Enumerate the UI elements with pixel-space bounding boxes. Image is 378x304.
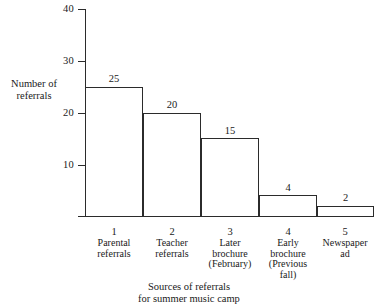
x-axis-caption-line-1: Sources of referrals bbox=[0, 281, 378, 293]
y-axis-title-line-2: referrals bbox=[2, 90, 66, 102]
x-category-label-3: 3 Later brochure (February) bbox=[197, 226, 263, 270]
bar-value-1: 25 bbox=[85, 73, 143, 84]
x-axis-caption: Sources of referrals for summer music ca… bbox=[0, 281, 378, 304]
x-category-line-5-1: Newspaper bbox=[312, 238, 378, 249]
x-category-line-2-1: Teacher bbox=[139, 238, 205, 249]
x-category-label-5: 5 Newspaper ad bbox=[312, 226, 378, 259]
x-category-line-2-2: referrals bbox=[139, 249, 205, 260]
y-tick-label-20: 20 bbox=[52, 108, 74, 119]
y-tick-label-10-wrap: 10 bbox=[52, 160, 74, 171]
y-tick-label-10: 10 bbox=[52, 160, 74, 171]
y-tick-label-30-wrap: 30 bbox=[52, 56, 74, 67]
y-tick-label-20-wrap: 20 bbox=[52, 108, 74, 119]
bar-value-5: 2 bbox=[317, 192, 374, 203]
bar-2 bbox=[143, 113, 201, 218]
bar-1 bbox=[85, 87, 143, 217]
bar-value-3: 15 bbox=[201, 125, 259, 136]
x-category-line-1-1: Parental bbox=[81, 238, 147, 249]
bar-3 bbox=[201, 138, 259, 217]
bar-value-2: 20 bbox=[143, 99, 201, 110]
bar-value-4: 4 bbox=[259, 182, 317, 193]
x-axis-caption-line-2: for summer music camp bbox=[0, 293, 378, 304]
x-category-line-3-1: Later bbox=[197, 238, 263, 249]
x-category-label-1: 1 Parental referrals bbox=[81, 226, 147, 259]
y-tick-mark-10 bbox=[78, 165, 85, 166]
y-tick-mark-40 bbox=[78, 9, 85, 10]
bar-5 bbox=[317, 206, 374, 217]
y-tick-mark-30 bbox=[78, 61, 85, 62]
x-category-line-4-4: fall) bbox=[255, 270, 321, 281]
y-tick-label-30: 30 bbox=[52, 56, 74, 67]
bar-4 bbox=[259, 195, 317, 217]
x-category-line-5-2: ad bbox=[312, 249, 378, 260]
y-axis-title-line-1: Number of bbox=[2, 78, 66, 90]
y-tick-label-40-wrap: 40 bbox=[52, 4, 74, 15]
y-tick-mark-20 bbox=[78, 113, 85, 114]
x-category-line-3-3: (February) bbox=[197, 259, 263, 270]
x-category-label-2: 2 Teacher referrals bbox=[139, 226, 205, 259]
y-tick-label-40: 40 bbox=[52, 4, 74, 15]
y-axis-title: Number of referrals bbox=[2, 78, 66, 101]
x-category-line-1-2: referrals bbox=[81, 249, 147, 260]
